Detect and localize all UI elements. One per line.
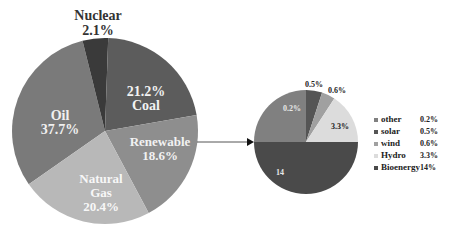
label-oil-pct: 37.7% xyxy=(41,122,80,137)
legend-swatch-wind xyxy=(374,142,378,146)
label-gas-name1: Natural xyxy=(79,171,123,186)
label-coal-name: Coal xyxy=(132,98,160,113)
label-hydro-pct: 3.3% xyxy=(331,122,349,131)
legend-swatch-other xyxy=(374,118,378,122)
label-solar-pct: 0.5% xyxy=(305,80,323,89)
label-nuclear-name: Nuclear xyxy=(74,8,121,23)
legend-swatch-bioenergy xyxy=(374,166,378,170)
label-coal-pct: 21.2% xyxy=(127,84,166,99)
legend-label-solar: solar xyxy=(381,126,400,136)
legend-label-bioenergy: Bioenergy xyxy=(381,162,420,172)
legend-value-bioenergy: 14% xyxy=(420,163,436,172)
label-oil-name: Oil xyxy=(51,108,70,123)
sub-pie-legend: other 0.2% solar 0.5% wind 0.6% Hydro 3.… xyxy=(374,114,438,172)
chart-canvas: Nuclear 2.1% 21.2% Coal Oil 37.7% Renewa… xyxy=(0,0,450,236)
arrowhead-icon xyxy=(247,138,254,146)
label-nuclear-pct: 2.1% xyxy=(82,23,114,38)
legend-swatch-hydro xyxy=(374,154,378,158)
legend-value-wind: 0.6% xyxy=(420,139,438,148)
sub-pie xyxy=(254,90,358,194)
legend-label-other: other xyxy=(381,114,402,124)
label-renewable-name: Renewable xyxy=(130,134,191,149)
legend-value-other: 0.2% xyxy=(420,115,438,124)
label-wind-pct: 0.6% xyxy=(328,86,346,95)
label-other-pct: 0.2% xyxy=(283,104,301,113)
slice-other xyxy=(254,90,306,142)
legend-value-hydro: 3.3% xyxy=(420,151,438,160)
label-renewable-pct: 18.6% xyxy=(142,148,178,163)
legend-swatch-solar xyxy=(374,130,378,134)
legend-value-solar: 0.5% xyxy=(420,127,438,136)
slice-bioenergy xyxy=(254,142,358,194)
label-gas-name2: Gas xyxy=(90,185,112,200)
legend-label-hydro: Hydro xyxy=(381,150,406,160)
label-gas-pct: 20.4% xyxy=(83,199,119,214)
label-bio-pct: 14 xyxy=(276,168,284,177)
legend-label-wind: wind xyxy=(381,138,400,148)
